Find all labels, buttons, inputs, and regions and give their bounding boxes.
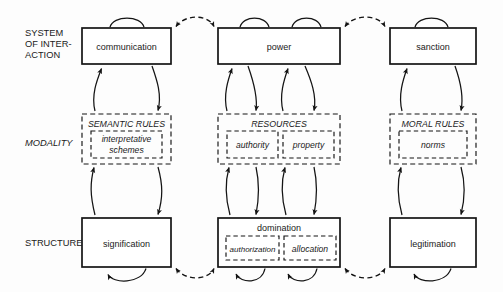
- structure-box-signification[interactable]: signification: [82, 218, 171, 267]
- structure-label-domination: domination: [257, 223, 301, 233]
- structure-label-signification: signification: [103, 239, 150, 249]
- interaction-box-power[interactable]: power: [218, 28, 340, 64]
- interaction-label-sanction: sanction: [416, 42, 450, 52]
- structure-box-domination[interactable]: domination authorization allocation: [218, 218, 340, 267]
- modality-inner-label-line-1: interpretative: [102, 134, 152, 144]
- structure-inner-label-allocation: allocation: [292, 244, 329, 254]
- modality-inner-label-norms: norms: [421, 140, 446, 150]
- modality-label-resources: RESOURCES: [251, 119, 307, 129]
- structure-box-legitimation[interactable]: legitimation: [390, 218, 476, 267]
- interaction-label-communication: communication: [96, 42, 157, 52]
- row-label-interaction-line-3: ACTION: [25, 50, 60, 60]
- modality-inner-label-line-2: schemes: [109, 145, 144, 155]
- modality-inner-label-authority: authority: [236, 140, 270, 150]
- row-label-interaction-line-1: SYSTEM: [25, 28, 63, 38]
- interaction-box-sanction[interactable]: sanction: [390, 28, 476, 64]
- interaction-box-communication[interactable]: communication: [82, 28, 171, 64]
- modality-label-moral-rules: MORAL RULES: [402, 119, 465, 129]
- structuration-duality-diagram: SYSTEM OF INTER- ACTION MODALITY STRUCTU…: [0, 0, 503, 292]
- interaction-label-power: power: [267, 42, 292, 52]
- structure-inner-label-authorization: authorization: [230, 245, 276, 254]
- row-label-interaction-line-2: OF INTER-: [25, 39, 71, 49]
- modality-inner-label-property: property: [292, 140, 325, 150]
- modality-label-semantic-rules: SEMANTIC RULES: [88, 119, 165, 129]
- row-label-modality: MODALITY: [25, 138, 73, 148]
- structure-label-legitimation: legitimation: [410, 239, 456, 249]
- row-label-structure: STRUCTURE: [25, 238, 82, 248]
